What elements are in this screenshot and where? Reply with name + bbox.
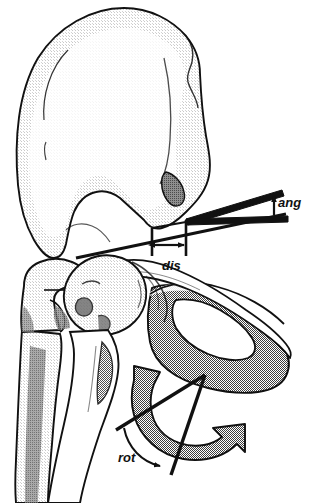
rot-label: rot: [118, 450, 136, 465]
anatomical-figure: ang dis rot: [0, 0, 312, 503]
fovea-capitis: [75, 298, 92, 316]
dis-label: dis: [162, 258, 181, 273]
ang-label: ang: [278, 195, 301, 210]
hip-measurement-diagram: ang dis rot: [0, 0, 312, 503]
